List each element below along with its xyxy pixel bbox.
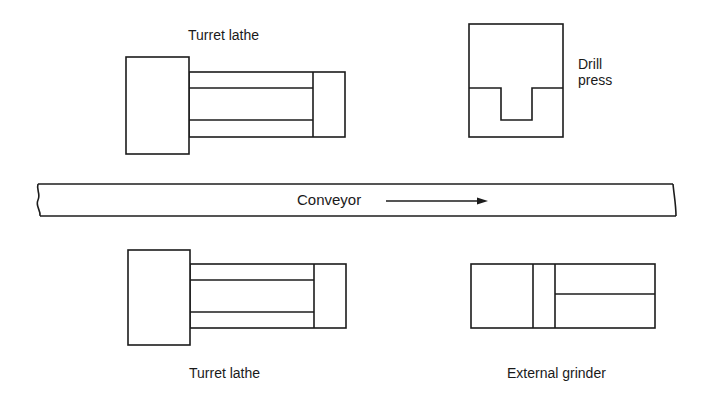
turret-lathe-bottom-shape [128,250,346,345]
drill-press-label-line2: press [578,72,612,88]
conveyor-arrow-head-icon [477,198,488,205]
external-grinder-shape [471,264,655,328]
conveyor-left-break [37,184,40,216]
lathe-bed [190,264,346,328]
drill-press-label-line1: Drill [578,56,602,72]
headstock [128,250,190,345]
conveyor-label: Conveyor [297,192,361,208]
turret-lathe-top-shape [126,57,345,154]
lathe-bed [189,72,345,137]
turret-lathe-bottom-label: Turret lathe [189,365,260,381]
conveyor-right-break [673,184,676,216]
external-grinder-label: External grinder [507,365,606,381]
plant-layout-diagram: Turret lathe Drill press Conveyor Turret… [0,0,704,399]
drill-press-shape [469,24,563,137]
grinder-frame [471,264,655,328]
turret-lathe-top-label: Turret lathe [188,27,259,43]
headstock [126,57,189,154]
